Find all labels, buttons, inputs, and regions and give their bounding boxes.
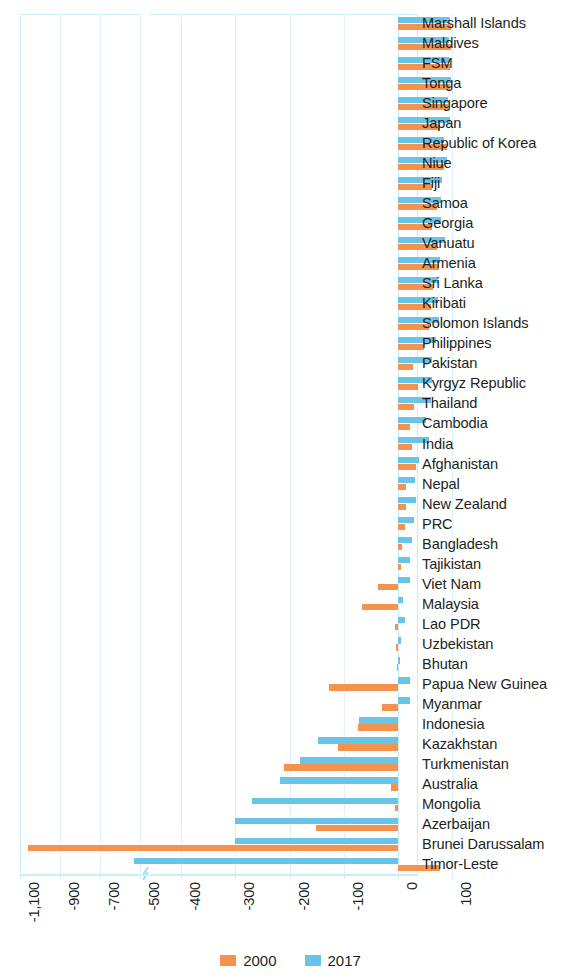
category-label: Mongolia — [422, 797, 581, 812]
bar-group — [20, 54, 418, 74]
bar-group — [20, 715, 418, 735]
bar-group — [20, 675, 418, 695]
bar-group — [20, 414, 418, 434]
category-label: Niue — [422, 156, 581, 171]
bar-2017 — [235, 838, 398, 844]
bar-group — [20, 114, 418, 134]
bar-2000 — [398, 464, 416, 470]
bar-2000 — [338, 744, 398, 750]
x-tick-label: 0 — [404, 882, 420, 890]
bar-group — [20, 495, 418, 515]
category-label: Bangladesh — [422, 537, 581, 552]
category-label: Tajikistan — [422, 557, 581, 572]
legend-swatch-2017-icon — [305, 955, 321, 966]
bar-2017 — [398, 677, 410, 683]
bar-2017 — [398, 577, 410, 583]
bar-2000 — [396, 644, 398, 650]
category-label: Timor-Leste — [422, 857, 581, 872]
category-label: Malaysia — [422, 597, 581, 612]
x-tick-label: -700 — [106, 882, 122, 910]
category-label: Afghanistan — [422, 457, 581, 472]
category-label: Pakistan — [422, 356, 581, 371]
x-axis-line — [20, 875, 418, 876]
category-label: Lao PDR — [422, 617, 581, 632]
bar-2017 — [398, 557, 410, 563]
bar-group — [20, 775, 418, 795]
category-label: Indonesia — [422, 717, 581, 732]
category-label: Republic of Korea — [422, 136, 581, 151]
bar-group — [20, 475, 418, 495]
x-tick-label: -300 — [241, 882, 257, 910]
legend-item-2017[interactable]: 2017 — [305, 952, 361, 969]
x-tick-label: -900 — [66, 882, 82, 910]
category-label: Kyrgyz Republic — [422, 376, 581, 391]
category-label: Thailand — [422, 396, 581, 411]
bar-group — [20, 655, 418, 675]
legend-label-2000: 2000 — [243, 952, 276, 969]
bar-group — [20, 735, 418, 755]
bar-group — [20, 595, 418, 615]
category-label: Japan — [422, 116, 581, 131]
bar-group — [20, 314, 418, 334]
category-label: Vanuatu — [422, 236, 581, 251]
bar-group — [20, 615, 418, 635]
category-label: Kazakhstan — [422, 737, 581, 752]
bar-group — [20, 835, 418, 855]
category-label: Philippines — [422, 336, 581, 351]
x-tick-mark — [398, 875, 399, 879]
x-tick-label: -200 — [296, 882, 312, 910]
bar-group — [20, 394, 418, 414]
category-label: Turkmenistan — [422, 757, 581, 772]
chart-legend: 2000 2017 — [0, 952, 581, 969]
category-label: Nepal — [422, 477, 581, 492]
x-tick-mark — [452, 875, 453, 879]
bar-2000 — [398, 564, 401, 570]
legend-item-2000[interactable]: 2000 — [220, 952, 276, 969]
bar-2017 — [398, 497, 416, 503]
bar-2000 — [398, 344, 424, 350]
category-label: Kiribati — [422, 296, 581, 311]
category-label: New Zealand — [422, 497, 581, 512]
bar-2000 — [391, 784, 398, 790]
bar-2000 — [398, 364, 413, 370]
bar-group — [20, 294, 418, 314]
bar-group — [20, 34, 418, 54]
bar-group — [20, 274, 418, 294]
bar-2017 — [235, 818, 398, 824]
category-label: FSM — [422, 56, 581, 71]
x-tick-mark — [235, 875, 236, 879]
bar-2000 — [358, 724, 398, 730]
category-label: Myanmar — [422, 697, 581, 712]
category-label: Brunei Darussalam — [422, 837, 581, 852]
bar-2017 — [398, 617, 405, 623]
bar-2000 — [378, 584, 398, 590]
category-label: Maldives — [422, 36, 581, 51]
category-label: Papua New Guinea — [422, 677, 581, 692]
bar-group — [20, 134, 418, 154]
bar-2017 — [252, 798, 398, 804]
bar-2000 — [329, 684, 398, 690]
x-tick-mark — [140, 875, 141, 879]
x-tick-mark — [344, 875, 345, 879]
bar-2000 — [362, 604, 398, 610]
x-tick-mark — [20, 875, 21, 879]
bar-2000 — [398, 384, 418, 390]
bar-2000 — [398, 524, 405, 530]
bar-2017 — [398, 597, 403, 603]
bar-group — [20, 855, 418, 875]
bar-2000 — [398, 404, 414, 410]
x-tick-label: -400 — [187, 882, 203, 910]
bar-group — [20, 334, 418, 354]
category-label: Fiji — [422, 176, 581, 191]
bar-group — [20, 695, 418, 715]
category-label: Georgia — [422, 216, 581, 231]
bar-2017 — [300, 757, 398, 763]
bar-group — [20, 755, 418, 775]
category-label: Marshall Islands — [422, 16, 581, 31]
category-label: Tonga — [422, 76, 581, 91]
bar-group — [20, 635, 418, 655]
plot-area — [20, 14, 418, 875]
category-axis-labels: Marshall IslandsMaldivesFSMTongaSingapor… — [422, 14, 581, 875]
bar-group — [20, 555, 418, 575]
category-label: Bhutan — [422, 657, 581, 672]
